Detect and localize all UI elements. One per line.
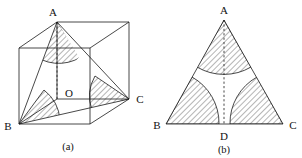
label-o-panel-a: O bbox=[65, 87, 73, 99]
label-c-panel-a: C bbox=[136, 93, 143, 105]
geometry-figure-container: A O B C (a) A bbox=[0, 0, 302, 158]
label-d-panel-b: D bbox=[220, 130, 228, 142]
caption-panel-b: (b) bbox=[218, 144, 231, 156]
label-a-panel-a: A bbox=[49, 6, 57, 18]
label-b-panel-a: B bbox=[4, 120, 11, 132]
geometry-figure-svg: A O B C (a) A bbox=[0, 0, 302, 158]
panel-b-group: A B D C (b) bbox=[153, 4, 296, 156]
label-b-panel-b: B bbox=[153, 119, 160, 131]
sector-at-a-panel-b bbox=[197, 20, 251, 74]
label-c-panel-b: C bbox=[289, 119, 296, 131]
label-a-panel-b: A bbox=[220, 4, 228, 16]
sector-at-c-panel-b bbox=[230, 77, 283, 124]
caption-panel-a: (a) bbox=[62, 141, 74, 153]
panel-a-group: A O B C (a) bbox=[4, 6, 143, 153]
sector-at-a bbox=[30, 22, 81, 63]
sector-at-b-panel-b bbox=[166, 77, 219, 124]
